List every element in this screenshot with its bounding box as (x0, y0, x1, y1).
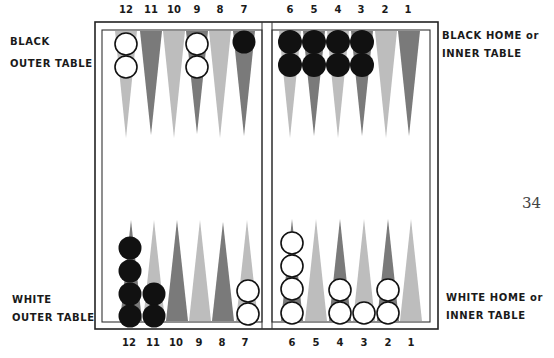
point-5-bottom (305, 219, 327, 321)
black-checker (143, 305, 166, 328)
black-checker (119, 305, 142, 328)
point-11-top (140, 31, 162, 135)
black-checker (119, 237, 142, 260)
top-points (115, 31, 420, 138)
black-checker (233, 31, 256, 54)
point-2-top (375, 31, 397, 138)
bottom-checkers (119, 232, 400, 328)
white-checker (377, 279, 399, 301)
backgammon-board (0, 0, 554, 358)
black-checker (302, 53, 326, 77)
point-1-top (398, 31, 420, 136)
bottom-points (120, 219, 422, 321)
point-8-top (209, 31, 231, 138)
white-checker (377, 302, 399, 324)
white-checker (281, 232, 303, 254)
black-checker (119, 283, 142, 306)
black-checker (143, 283, 166, 306)
white-checker (186, 56, 208, 78)
black-checker (278, 30, 302, 54)
point-8-bottom (212, 222, 234, 321)
black-checker (350, 53, 374, 77)
black-checker (119, 260, 142, 283)
white-checker (186, 33, 208, 55)
white-checker (237, 280, 259, 302)
white-checker (115, 56, 137, 78)
white-checker (329, 302, 351, 324)
black-checker (302, 30, 326, 54)
white-checker (281, 302, 303, 324)
point-9-bottom (189, 220, 211, 321)
black-checker (350, 30, 374, 54)
white-checker (353, 302, 375, 324)
white-checker (329, 279, 351, 301)
point-10-top (163, 31, 185, 138)
white-checker (237, 303, 259, 325)
point-1-bottom (400, 219, 422, 321)
black-checker (326, 30, 350, 54)
white-checker (281, 278, 303, 300)
white-checker (281, 255, 303, 277)
white-checker (115, 33, 137, 55)
point-10-bottom (166, 220, 188, 321)
black-checker (278, 53, 302, 77)
black-checker (326, 53, 350, 77)
